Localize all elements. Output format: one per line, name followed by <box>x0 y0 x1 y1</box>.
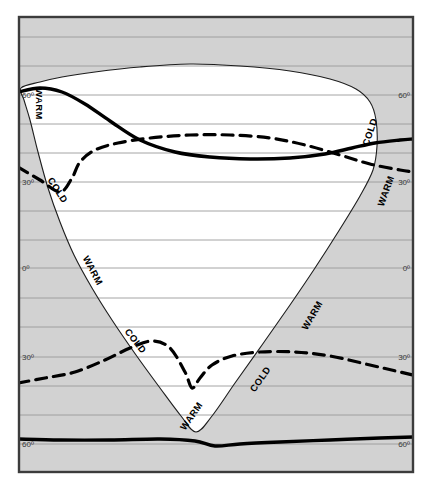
latitude-label-right-3: 30º <box>398 353 410 362</box>
latitude-label-left-3: 30º <box>22 353 34 362</box>
latitude-label-right-1: 30º <box>398 178 410 187</box>
zone-label-warm-0: WARM <box>34 88 45 120</box>
latitude-label-left-0: 60º <box>22 91 34 100</box>
latitude-label-right-0: 60º <box>398 91 410 100</box>
latitude-label-right-4: 60º <box>398 440 410 449</box>
latitude-label-left-2: 0º <box>22 264 29 273</box>
latitude-label-right-2: 0º <box>403 264 410 273</box>
latitude-label-left-4: 60º <box>22 440 34 449</box>
latitude-label-left-1: 30º <box>22 178 34 187</box>
map-svg: 60º30º0º30º60º60º30º0º30º60º WARMCOLDWAR… <box>0 0 431 488</box>
map-figure: 60º30º0º30º60º60º30º0º30º60º WARMCOLDWAR… <box>0 0 431 488</box>
